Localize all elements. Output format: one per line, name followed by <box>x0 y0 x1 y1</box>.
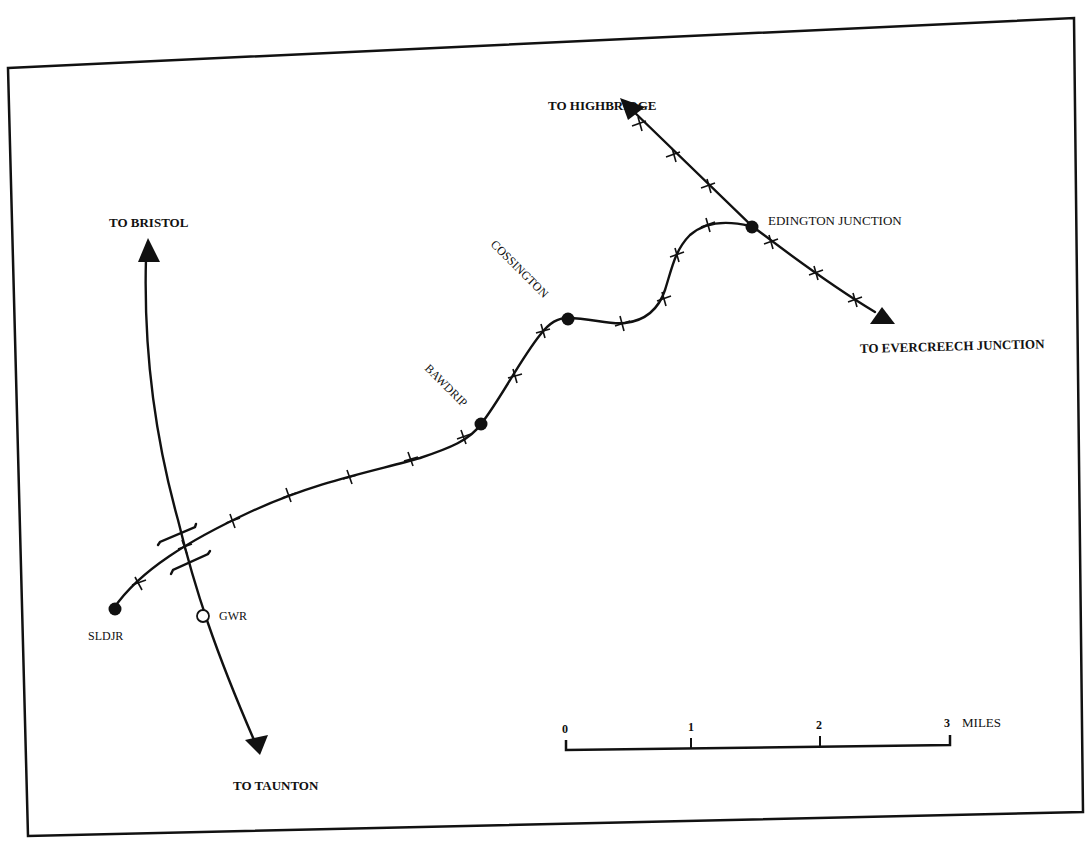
label-to-highbridge: TO HIGHBRIDGE <box>548 98 656 113</box>
label-bawdrip: BAWDRIP <box>422 361 471 410</box>
arrow-to-evercreech-icon <box>870 307 895 324</box>
scale-tick-1: 1 <box>688 720 694 734</box>
station-sldjr-icon <box>109 603 122 616</box>
label-sldjr: SLDJR <box>88 629 123 643</box>
station-edington-junction-icon <box>746 221 759 234</box>
label-gwr: GWR <box>219 609 247 623</box>
map-frame <box>8 18 1083 836</box>
station-cossington-icon <box>562 313 575 326</box>
label-edington-junction: EDINGTON JUNCTION <box>768 213 902 228</box>
label-to-evercreech-junction: TO EVERCREECH JUNCTION <box>860 336 1046 356</box>
railway-map: TO HIGHBRIDGE TO BRISTOL TO EVERCREECH J… <box>0 0 1088 850</box>
gwr-bristol-taunton-line <box>146 258 254 740</box>
label-to-bristol: TO BRISTOL <box>109 215 189 230</box>
arrow-to-taunton-icon <box>245 735 268 755</box>
scale-bar: 0 1 2 3 MILES <box>562 715 1001 750</box>
scale-tick-0: 0 <box>562 722 568 736</box>
station-gwr-icon <box>197 610 209 622</box>
scale-tick-3: 3 <box>944 716 950 730</box>
arrow-to-bristol-icon <box>138 238 160 262</box>
scale-tick-2: 2 <box>816 718 822 732</box>
scale-unit: MILES <box>962 715 1001 730</box>
label-to-taunton: TO TAUNTON <box>233 778 319 793</box>
mileposts <box>132 117 862 590</box>
label-cossington: COSSINGTON <box>488 237 552 301</box>
station-bawdrip-icon <box>475 418 488 431</box>
